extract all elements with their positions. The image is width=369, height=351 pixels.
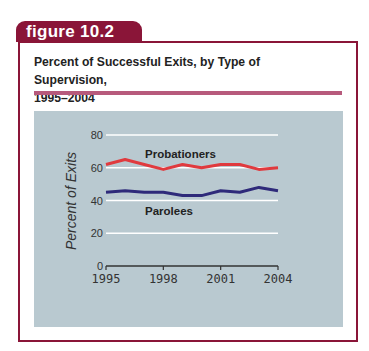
label-probationers: Probationers <box>145 148 216 160</box>
x-tick-label: 2001 <box>206 272 235 286</box>
y-tick-label: 20 <box>91 227 103 239</box>
label-parolees: Parolees <box>145 205 193 217</box>
y-axis-label: Percent of Exits <box>63 152 79 250</box>
y-tick-label: 60 <box>91 162 103 174</box>
series-line-parolees <box>106 187 278 195</box>
line-chart: 0204060801995199820012004Percent of Exit… <box>0 0 369 351</box>
y-tick-label: 40 <box>91 195 103 207</box>
x-tick-label: 2004 <box>264 272 293 286</box>
y-tick-label: 80 <box>91 129 103 141</box>
x-tick-label: 1998 <box>149 272 178 286</box>
x-tick-label: 1995 <box>92 272 121 286</box>
y-tick-label: 0 <box>97 260 103 272</box>
